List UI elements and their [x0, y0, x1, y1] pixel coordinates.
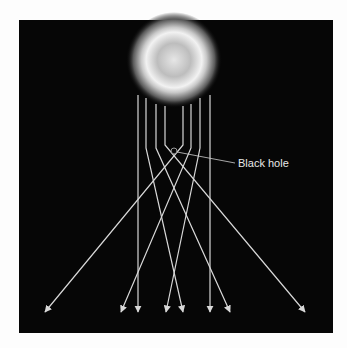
light-ray-arrow	[165, 106, 305, 312]
black-hole-icon	[171, 148, 177, 154]
light-ray-arrow	[156, 104, 230, 312]
light-ray-arrow	[45, 106, 183, 312]
black-hole-label: Black hole	[238, 157, 289, 169]
light-rays	[45, 95, 305, 312]
lensing-diagram	[0, 0, 347, 348]
light-source	[126, 12, 222, 108]
